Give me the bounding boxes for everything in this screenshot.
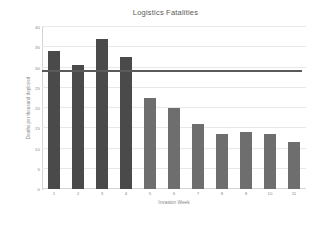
bar <box>144 98 155 189</box>
x-tick-label: 5 <box>149 191 151 196</box>
x-tick-label: 7 <box>197 191 199 196</box>
x-tick-label: 4 <box>125 191 127 196</box>
x-tick-label: 1 <box>53 191 55 196</box>
plot-area <box>42 27 306 189</box>
x-tick-label: 9 <box>245 191 247 196</box>
bar <box>48 51 59 189</box>
bar <box>72 65 83 189</box>
chart-container: Logistics Fatalities 0510152025303540 De… <box>0 0 331 225</box>
bar <box>192 124 203 189</box>
bar <box>216 134 227 189</box>
x-tick-label: 2 <box>77 191 79 196</box>
y-tick-label: 5 <box>26 166 40 171</box>
y-tick-label: 0 <box>26 187 40 192</box>
x-tick-label: 6 <box>173 191 175 196</box>
y-tick-label: 35 <box>26 45 40 50</box>
x-axis-title: Invasion Week <box>42 200 306 205</box>
x-tick-label: 10 <box>268 191 273 196</box>
gridline <box>42 46 306 47</box>
x-tick-label: 3 <box>101 191 103 196</box>
y-axis-title: Deaths per thousand deployed <box>26 60 31 156</box>
x-tick-label: 8 <box>221 191 223 196</box>
bar <box>168 108 179 189</box>
x-tick-label: 11 <box>292 191 297 196</box>
target-line <box>42 70 302 71</box>
chart-title: Logistics Fatalities <box>0 8 331 17</box>
bar <box>288 142 299 189</box>
bar <box>264 134 275 189</box>
y-axis-title-container: Deaths per thousand deployed <box>18 27 26 189</box>
bar <box>96 39 107 189</box>
bar <box>120 57 131 189</box>
bar <box>240 132 251 189</box>
gridline <box>42 26 306 27</box>
y-tick-label: 40 <box>26 25 40 30</box>
